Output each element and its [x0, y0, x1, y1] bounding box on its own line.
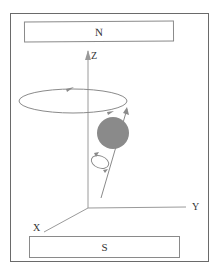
spinning-sphere — [97, 117, 129, 149]
spin-vector-arrowhead-icon — [123, 107, 129, 115]
precession-orbit — [19, 87, 127, 115]
x-axis-label: X — [33, 222, 40, 233]
y-axis — [88, 207, 186, 208]
x-axis — [44, 208, 88, 232]
orbit-arrow-icon — [107, 111, 114, 115]
z-axis — [85, 50, 91, 208]
spin-arrow-icon — [103, 169, 108, 173]
y-axis-label: Y — [192, 201, 199, 212]
spin-rotation-indicator — [89, 152, 110, 173]
z-axis-label: Z — [91, 50, 97, 61]
